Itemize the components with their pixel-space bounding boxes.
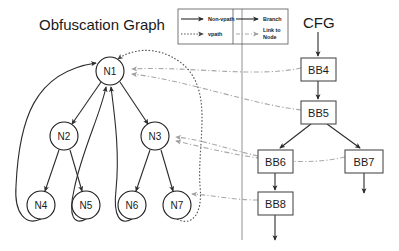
legend-item-branch: Branch: [236, 16, 282, 22]
edge-n2-to-n4: [45, 150, 59, 191]
cfg-block-bb5[interactable]: BB5: [301, 101, 336, 124]
graph-node-n4-label: N4: [35, 200, 48, 211]
legend-item-vpath: vpath: [181, 31, 222, 37]
page-title-cfg: CFG: [303, 14, 335, 31]
graph-node-n3[interactable]: N3: [141, 122, 169, 150]
edge-n3-to-n7: [161, 150, 173, 191]
figure-root: Obfuscation Graph CFG Non-vpath Branch v…: [0, 0, 399, 251]
graph-node-n5-label: N5: [80, 200, 93, 211]
graph-node-n6[interactable]: N6: [118, 191, 146, 219]
legend: Non-vpath Branch vpath Link to Node: [178, 9, 288, 44]
cfg-edge-bb5-to-bb6: [280, 124, 311, 148]
legend-label-non-vpath: Non-vpath: [208, 16, 235, 22]
link-edge-bb4-to-n1: [132, 68, 301, 72]
cfg-block-bb4-label: BB4: [308, 64, 329, 76]
graph-node-n7[interactable]: N7: [163, 191, 191, 219]
graph-node-n4[interactable]: N4: [27, 191, 55, 219]
cfg-block-bb5-label: BB5: [308, 107, 329, 119]
legend-item-non-vpath: Non-vpath: [181, 16, 235, 22]
legend-label-branch: Branch: [263, 16, 282, 22]
link-edge-bb6-to-n3: [176, 137, 258, 156]
cfg-block-bb8-label: BB8: [265, 198, 286, 210]
link-edge-bb8-to-n7: [192, 194, 258, 200]
cfg-edge-bb5-to-bb7: [327, 124, 360, 148]
graph-node-n7-label: N7: [171, 200, 184, 211]
cfg-block-bb6-label: BB6: [265, 156, 286, 168]
edge-n2-to-n5: [70, 150, 82, 191]
graph-node-n1[interactable]: N1: [96, 57, 124, 85]
legend-label-link-to-node-line1: Link to: [263, 27, 281, 33]
cfg-block-bb8[interactable]: BB8: [258, 192, 293, 215]
cfg-block-bb7-label: BB7: [354, 156, 375, 168]
legend-label-link-to-node-line2: Node: [263, 34, 276, 40]
graph-node-n1-label: N1: [104, 66, 117, 77]
legend-item-link-to-node: Link to Node: [236, 27, 281, 40]
graph-node-n3-label: N3: [149, 131, 162, 142]
page-title-obfuscation-graph: Obfuscation Graph: [39, 16, 165, 33]
cfg-block-bb7[interactable]: BB7: [345, 150, 383, 173]
edge-n1-to-n3: [120, 82, 148, 124]
legend-label-vpath: vpath: [208, 31, 222, 37]
link-edge-bb5-to-n1: [132, 74, 301, 110]
graph-node-n2[interactable]: N2: [50, 122, 78, 150]
graph-node-n2-label: N2: [58, 131, 71, 142]
graph-node-n5[interactable]: N5: [72, 191, 100, 219]
cfg-block-bb4[interactable]: BB4: [301, 58, 336, 81]
cfg-block-bb6[interactable]: BB6: [258, 150, 293, 173]
graph-node-n6-label: N6: [126, 200, 139, 211]
edge-n3-to-n6: [136, 150, 150, 191]
